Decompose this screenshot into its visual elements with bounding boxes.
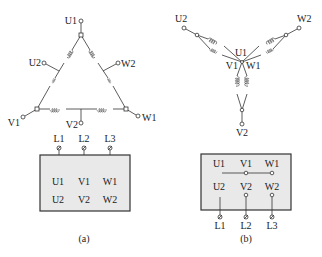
label-w2: W2 xyxy=(121,58,135,69)
delta-line-terminals: L1 L2 L3 xyxy=(53,133,115,155)
screw-icon xyxy=(57,146,61,150)
label-w1: W1 xyxy=(246,60,260,71)
coil-bottom-right xyxy=(97,108,106,112)
box-b-u2: U2 xyxy=(213,181,225,192)
box-a-v1: V1 xyxy=(78,176,90,187)
coil-upper-right xyxy=(88,49,95,58)
box-b-w2: W2 xyxy=(265,181,279,192)
screw-icon xyxy=(270,215,274,219)
terminal-post xyxy=(244,171,248,175)
box-a-v2: V2 xyxy=(78,194,90,205)
terminal-w2 xyxy=(116,61,120,65)
label-l1: L1 xyxy=(214,220,225,231)
coil-u-a xyxy=(207,37,217,45)
delta-diagram: U1 U2 W2 V1 V2 W1 U1 V1 W1 U2 V2 W2 L1 L… xyxy=(8,15,157,245)
box-b-v1: V1 xyxy=(240,158,252,169)
terminal-post xyxy=(270,171,274,175)
box-a-u2: U2 xyxy=(52,194,64,205)
junction-v xyxy=(240,108,244,112)
label-l1: L1 xyxy=(53,133,64,144)
label-l2: L2 xyxy=(78,133,89,144)
coil-v-b xyxy=(245,76,249,86)
terminal-post xyxy=(270,193,274,197)
box-b-u1: U1 xyxy=(213,158,225,169)
delta-coils xyxy=(50,49,112,112)
caption-b: (b) xyxy=(240,233,252,245)
box-a-u1: U1 xyxy=(52,176,64,187)
star-diagram: U2 W2 U1 V1 W1 V2 U1 V1 W1 U2 V2 W2 xyxy=(175,13,311,245)
terminal-u2 xyxy=(42,61,46,65)
label-v1: V1 xyxy=(8,117,20,128)
box-b-v2: V2 xyxy=(240,181,252,192)
star-center xyxy=(241,61,244,64)
coil-lower-right xyxy=(107,78,112,84)
vertex-left xyxy=(35,107,39,111)
screw-icon xyxy=(82,146,86,150)
screw-icon xyxy=(108,146,112,150)
box-a-w1: W1 xyxy=(103,176,117,187)
screw-icon xyxy=(218,215,222,219)
label-w2: W2 xyxy=(297,13,311,24)
winding-diagram: U1 U2 W2 V1 V2 W1 U1 V1 W1 U2 V2 W2 L1 L… xyxy=(0,0,322,257)
label-l3: L3 xyxy=(104,133,115,144)
label-l3: L3 xyxy=(266,220,277,231)
junction-u xyxy=(195,33,199,37)
coil-w-a xyxy=(266,37,276,45)
terminal-u2 xyxy=(182,26,186,30)
vertex-right xyxy=(124,107,128,111)
box-a-w2: W2 xyxy=(103,194,117,205)
label-u2: U2 xyxy=(175,13,187,24)
coil-u-b xyxy=(209,48,217,54)
label-v2: V2 xyxy=(236,127,248,138)
coil-upper-left xyxy=(66,49,73,58)
junction-w xyxy=(284,33,288,37)
label-u1: U1 xyxy=(65,15,77,26)
coil-v-a xyxy=(235,76,239,86)
label-u1: U1 xyxy=(235,47,247,58)
delta-terminal-box: U1 V1 W1 U2 V2 W2 xyxy=(40,155,130,211)
terminal-u1 xyxy=(79,19,83,23)
coil-w-b xyxy=(266,48,274,54)
coil-bottom-left xyxy=(50,108,59,112)
terminal-v2 xyxy=(240,122,244,126)
terminal-v1 xyxy=(21,115,25,119)
caption-a: (a) xyxy=(78,233,89,245)
label-v2: V2 xyxy=(66,119,78,130)
terminal-v2 xyxy=(79,121,83,125)
screw-icon xyxy=(244,215,248,219)
label-l2: L2 xyxy=(240,220,251,231)
terminal-w1 xyxy=(136,114,140,118)
label-w1: W1 xyxy=(142,112,156,123)
coil-lower-left xyxy=(51,78,56,84)
vertex-top xyxy=(79,33,83,37)
label-v1: V1 xyxy=(226,60,238,71)
terminal-post xyxy=(244,193,248,197)
terminal-w2 xyxy=(297,26,301,30)
delta-wires xyxy=(25,23,136,121)
label-u2: U2 xyxy=(29,57,41,68)
box-b-w1: W1 xyxy=(265,158,279,169)
